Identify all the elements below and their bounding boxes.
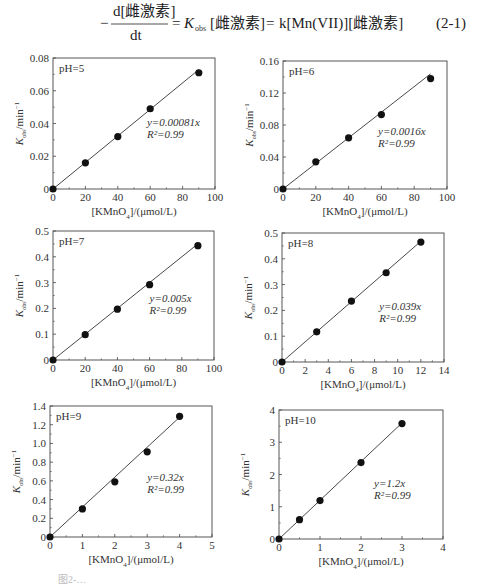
y-tick-label: 0.08 [260, 119, 280, 131]
data-point [316, 497, 323, 504]
fit-r-squared: R²=0.99 [146, 483, 184, 495]
x-tick-label: 4 [440, 541, 446, 553]
data-point [378, 111, 385, 118]
y-tick-label: 0 [44, 354, 50, 366]
data-point [357, 459, 364, 466]
y-tick-label: 0.04 [30, 118, 50, 130]
chart-panel-5: 01234500.20.40.60.81.01.21.4pH=9y=0.32xR… [10, 400, 215, 569]
fit-equation: y=0.005x [149, 292, 192, 304]
chart-panel-1: 02040608010000.020.040.060.08pH=5y=0.000… [13, 52, 224, 221]
y-tick-label: 0.4 [35, 251, 49, 263]
y-tick-label: 0.1 [264, 330, 278, 342]
y-tick-label: 2 [270, 469, 276, 481]
x-tick-label: 0 [279, 364, 285, 376]
fit-equation: y=0.039x [378, 300, 421, 312]
fit-equation: y=0.00081x [146, 116, 200, 128]
x-tick-label: 10 [392, 364, 404, 376]
y-tick-label: 0.06 [30, 85, 50, 97]
x-tick-label: 8 [372, 364, 378, 376]
y-tick-label: 1 [270, 501, 276, 513]
y-axis-label: Kobs/min−1 [13, 101, 27, 146]
x-tick-label: 12 [415, 364, 426, 376]
data-point [49, 356, 56, 363]
data-point [279, 185, 286, 192]
x-tick-label: 80 [177, 191, 189, 203]
y-tick-label: 0 [273, 356, 279, 368]
data-point [345, 134, 352, 141]
x-tick-label: 80 [176, 362, 188, 374]
x-tick-label: 80 [409, 191, 421, 203]
y-tick-label: 0 [41, 531, 47, 543]
fit-equation: y=0.32x [146, 471, 184, 483]
data-point [144, 448, 151, 455]
data-point [46, 533, 53, 540]
y-tick-label: 0.8 [32, 456, 46, 468]
data-point [82, 331, 89, 338]
chart-panel-3: 02040608010000.10.20.30.40.5pH=7y=0.005x… [13, 225, 223, 392]
data-point [147, 105, 154, 112]
y-tick-label: 0.2 [264, 304, 278, 316]
y-tick-label: 0 [274, 183, 280, 195]
x-axis-label: [KMnO4]/(μmol/L) [322, 205, 408, 221]
plot-frame [50, 406, 212, 537]
y-axis-label: Kobs/min−1 [10, 449, 24, 494]
x-tick-label: 20 [310, 191, 322, 203]
x-tick-label: 2 [302, 364, 308, 376]
plot-frame [279, 410, 443, 539]
x-tick-label: 20 [80, 191, 92, 203]
y-tick-label: 1.0 [32, 437, 46, 449]
x-tick-label: 14 [439, 364, 451, 376]
x-tick-label: 3 [144, 539, 150, 551]
data-point [348, 298, 355, 305]
ph-label: pH=6 [289, 65, 315, 77]
x-tick-label: 0 [50, 191, 56, 203]
data-point [275, 535, 282, 542]
fit-equation: y=1.2x [373, 477, 405, 489]
x-tick-label: 0 [47, 539, 53, 551]
x-tick-label: 5 [209, 539, 215, 551]
y-tick-label: 0.2 [32, 512, 46, 524]
x-tick-label: 4 [177, 539, 183, 551]
x-axis-label: [KMnO4]/(μmol/L) [318, 555, 404, 571]
data-point [383, 269, 390, 276]
ph-label: pH=9 [56, 410, 82, 422]
data-point [427, 75, 434, 82]
x-tick-label: 60 [144, 362, 156, 374]
x-tick-label: 60 [376, 191, 388, 203]
x-tick-label: 100 [206, 362, 223, 374]
data-point [49, 185, 56, 192]
x-axis-label: [KMnO4]/(μmol/L) [88, 553, 174, 569]
x-axis-label: [KMnO4]/(μmol/L) [91, 205, 177, 221]
x-tick-label: 40 [343, 191, 355, 203]
y-tick-label: 0.02 [30, 150, 49, 162]
data-point [176, 413, 183, 420]
x-tick-label: 3 [399, 541, 405, 553]
data-point [82, 159, 89, 166]
ph-label: pH=5 [59, 62, 85, 74]
y-tick-label: 0 [44, 183, 50, 195]
fit-r-squared: R²=0.99 [377, 137, 415, 149]
x-tick-label: 1 [80, 539, 86, 551]
x-tick-label: 0 [280, 191, 286, 203]
y-tick-label: 0.4 [32, 494, 46, 506]
x-tick-label: 4 [326, 364, 332, 376]
y-tick-label: 0.3 [264, 279, 278, 291]
data-point [278, 358, 285, 365]
x-tick-label: 20 [80, 362, 92, 374]
y-axis-label: Kobs/min−1 [242, 275, 256, 320]
chart-panel-6: 0123401234pH=10y=1.2xR²=0.99[KMnO4]/(μmo… [239, 404, 446, 571]
y-tick-label: 3 [270, 436, 276, 448]
data-point [114, 306, 121, 313]
y-tick-label: 0.2 [35, 302, 49, 314]
x-tick-label: 0 [50, 362, 56, 374]
data-point [194, 242, 201, 249]
x-axis-label: [KMnO4]/(μmol/L) [320, 378, 406, 394]
y-tick-label: 0.6 [32, 475, 46, 487]
y-tick-label: 0.5 [35, 225, 49, 237]
data-point [313, 328, 320, 335]
kobs-vs-kmno4-figure: 02040608010000.020.040.060.08pH=5y=0.000… [0, 0, 494, 584]
data-point [111, 478, 118, 485]
x-tick-label: 6 [349, 364, 355, 376]
data-point [417, 238, 424, 245]
ph-label: pH=7 [59, 235, 85, 247]
